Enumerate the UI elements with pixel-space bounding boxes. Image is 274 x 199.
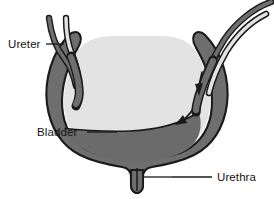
label-urethra: Urethra <box>217 171 256 183</box>
label-bladder: Bladder <box>37 126 77 138</box>
urethra-tube <box>131 168 143 193</box>
bladder-diagram: Ureter Bladder Urethra <box>0 0 274 199</box>
label-ureter: Ureter <box>8 38 41 50</box>
anatomy-illustration <box>0 0 274 199</box>
